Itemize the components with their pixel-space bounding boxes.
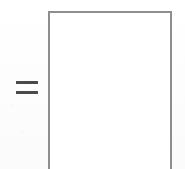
- empty-box-interior: [50, 13, 171, 169]
- equals-sign-icon: [16, 81, 38, 97]
- equals-lower-bar: [16, 91, 38, 94]
- empty-box-left-edge: [48, 11, 50, 169]
- empty-box-right-edge: [170, 11, 172, 169]
- empty-box-top-edge: [48, 11, 172, 13]
- empty-box-outline: [48, 11, 172, 169]
- image-canvas: [0, 0, 185, 169]
- equals-upper-bar: [16, 81, 38, 84]
